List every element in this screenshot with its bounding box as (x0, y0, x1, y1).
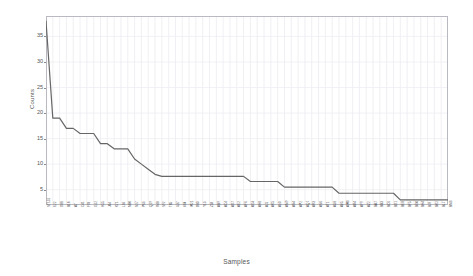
x-tick-label: BM3 (450, 201, 453, 207)
x-tick-label: T05 (170, 202, 173, 207)
x-tick-label: L36 (123, 202, 126, 207)
x-tick-label: E22 (54, 201, 57, 207)
x-tick-label: BL7 (443, 201, 446, 207)
x-tick-label: Y13 (204, 201, 207, 207)
x-tick-label: P63 (143, 201, 146, 207)
x-tick-label: AP2 (300, 201, 303, 207)
x-tick-label: C41 (82, 201, 85, 207)
x-tick-label: AK5 (272, 201, 275, 207)
x-tick-label: Q19 (150, 201, 153, 207)
x-tick-label: AQ7 (307, 201, 310, 207)
x-tick-label: AY9 (361, 201, 364, 207)
x-tick-label: AX4 (354, 201, 357, 207)
x-tick-label: AT1 (327, 202, 330, 207)
plot-area (46, 16, 448, 205)
chart-svg (46, 16, 448, 205)
x-tick-label: AV5 (341, 201, 344, 207)
x-tick-label: W21 (191, 201, 194, 207)
x-tick-label: BD1 (395, 201, 398, 207)
x-tick-label: AZ2 (368, 201, 371, 207)
x-tick-label: R48 (157, 201, 160, 207)
x-tick-label: BC6 (388, 201, 391, 207)
chart-root: Counts 5101520253035 ST131E22D88B18A7C41… (0, 0, 473, 276)
x-tick-label: V84 (184, 201, 187, 207)
x-axis-tick-labels: ST131E22D88B18A7C41F93G12H55J04K71L36M80… (46, 207, 448, 257)
x-tick-label: AF6 (245, 201, 248, 207)
x-tick-label: AJ1 (266, 202, 269, 207)
x-tick-label: S92 (163, 201, 166, 207)
x-tick-label: K71 (116, 201, 119, 207)
y-tick-label: 15 (23, 136, 43, 142)
y-tick-label: 20 (23, 110, 43, 116)
x-tick-label: AW0 (347, 200, 350, 207)
x-tick-label: AR3 (313, 201, 316, 207)
x-tick-label: AN4 (293, 201, 296, 207)
x-tick-label: AU8 (334, 201, 337, 207)
x-tick-label: AE2 (238, 201, 241, 207)
x-tick-label: BF5 (409, 201, 412, 207)
x-tick-label: AL0 (279, 201, 282, 207)
x-tick-label: J04 (109, 202, 112, 207)
x-tick-label: BG0 (416, 201, 419, 207)
x-tick-label: A7 (75, 203, 78, 207)
x-tick-label: BH4 (422, 201, 425, 207)
x-tick-label: AS6 (320, 201, 323, 207)
vertical-gridlines (46, 16, 448, 205)
x-tick-label: AD7 (232, 201, 235, 207)
x-tick-label: AM9 (286, 201, 289, 207)
x-tick-label: N27 (136, 201, 139, 207)
y-tick-label: 25 (23, 85, 43, 91)
x-tick-label: BK2 (436, 201, 439, 207)
y-tick-label: 30 (23, 59, 43, 65)
x-tick-label: BA7 (375, 201, 378, 207)
x-tick-label: U37 (177, 201, 180, 207)
x-tick-label: G12 (95, 201, 98, 207)
y-tick-label: 35 (23, 33, 43, 39)
x-tick-label: ST131 (48, 198, 51, 207)
x-tick-label: M80 (129, 201, 132, 207)
x-tick-label: BE8 (402, 201, 405, 207)
x-tick-label: BJ9 (429, 202, 432, 207)
data-series-line (46, 21, 448, 200)
x-tick-label: Z58 (211, 202, 214, 207)
plot-frame (47, 17, 448, 205)
x-tick-label: AH8 (259, 201, 262, 207)
x-tick-label: BB3 (381, 201, 384, 207)
y-tick-label: 10 (23, 161, 43, 167)
y-tick-label: 5 (23, 187, 43, 193)
x-tick-label: B18 (68, 201, 71, 207)
x-tick-label: AG3 (252, 201, 255, 207)
y-axis-tick-labels: 5101520253035 (20, 0, 43, 276)
x-tick-label: AB9 (218, 201, 221, 207)
horizontal-gridlines (46, 36, 448, 189)
x-tick-label: AC4 (225, 201, 228, 207)
x-axis-title: Samples (0, 258, 473, 265)
x-tick-label: D88 (61, 201, 64, 207)
x-tick-label: H55 (102, 201, 105, 207)
